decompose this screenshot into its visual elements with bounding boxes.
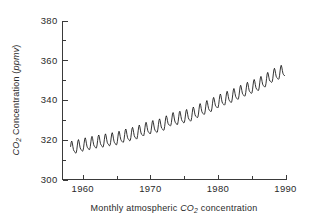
caption-species: CO xyxy=(180,203,194,213)
y-tick-label: 300 xyxy=(41,174,58,185)
x-tick-label: 1960 xyxy=(72,183,94,194)
y-axis-major-ticks xyxy=(63,22,68,181)
svg-text:Monthly atmospheric CO2 concen: Monthly atmospheric CO2 concentration xyxy=(91,203,258,214)
caption-before: Monthly atmospheric xyxy=(91,203,181,213)
co2-chart-figure: 300320340360380 1960197019801990 CO2 Con… xyxy=(0,0,310,224)
svg-text:CO2 Concentration (ppmv): CO2 Concentration (ppmv) xyxy=(11,44,22,155)
y-axis-title: CO2 Concentration (ppmv) xyxy=(11,44,22,155)
x-tick-label: 1990 xyxy=(274,183,296,194)
ylabel-close: ) xyxy=(11,44,21,47)
x-axis-tick-labels: 1960197019801990 xyxy=(72,183,297,194)
co2-series-line xyxy=(71,65,285,153)
y-tick-label: 360 xyxy=(41,55,58,66)
axes-group xyxy=(63,21,286,180)
x-tick-label: 1970 xyxy=(139,183,161,194)
ylabel-units: ppmv xyxy=(11,47,21,71)
caption-after: concentration xyxy=(198,203,257,213)
figure-caption: Monthly atmospheric CO2 concentration xyxy=(91,203,258,214)
ylabel-species: CO xyxy=(11,142,21,156)
y-tick-label: 380 xyxy=(41,15,58,26)
chart-svg: 300320340360380 1960197019801990 CO2 Con… xyxy=(0,0,310,224)
x-tick-label: 1980 xyxy=(207,183,229,194)
y-tick-label: 340 xyxy=(41,94,58,105)
data-series-group xyxy=(71,65,285,153)
y-tick-label: 320 xyxy=(41,134,58,145)
y-axis-tick-labels: 300320340360380 xyxy=(41,15,58,185)
ylabel-middle: Concentration ( xyxy=(11,70,21,137)
